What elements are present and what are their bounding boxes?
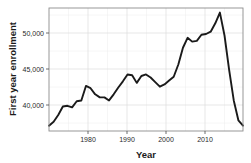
y-axis-title: First year enrollment	[7, 21, 18, 116]
y-tick-label-40000: 40,000	[23, 102, 45, 109]
y-tick-label-45000: 45,000	[23, 66, 45, 73]
x-tick-label-1980: 1980	[80, 136, 96, 143]
x-axis-title: Year	[136, 149, 156, 160]
x-tick-label-2000: 2000	[158, 136, 174, 143]
x-tick-label-2010: 2010	[197, 136, 213, 143]
enrollment-line-chart: 50,000 45,000 40,000 1980 1990 2000 2010…	[0, 0, 251, 163]
chart-canvas: 50,000 45,000 40,000 1980 1990 2000 2010…	[0, 0, 251, 163]
y-tick-label-50000: 50,000	[23, 30, 45, 37]
x-tick-label-1990: 1990	[119, 136, 135, 143]
